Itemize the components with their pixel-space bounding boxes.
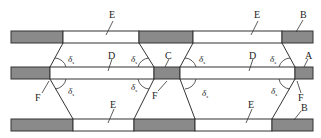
- top-plate-segment-gray: [282, 31, 313, 43]
- middle-plate-segment-gray: [11, 67, 50, 79]
- top-plate-segment-white: [193, 31, 282, 43]
- wall-top-right: [282, 43, 295, 67]
- arc-top-right: [279, 58, 290, 67]
- cell-walls: [50, 43, 295, 119]
- leader-f-left: [42, 81, 49, 93]
- delta-c-bottom-left: δs: [131, 82, 137, 93]
- top-plate-segment-gray: [11, 31, 63, 43]
- arc-top-c-left: [138, 58, 149, 67]
- delta-bottom-left: δs: [68, 86, 74, 97]
- top-plate-segment-white: [63, 31, 139, 43]
- wall-top-center-left: [139, 43, 154, 67]
- delta-c-top-right: δs: [199, 54, 205, 65]
- arc-top-left: [55, 58, 66, 67]
- leader-f-center: [158, 81, 167, 91]
- bottom-plate-segment-white: [73, 119, 134, 131]
- delta-c-top-left: δs: [131, 54, 137, 65]
- label-d-right: D: [249, 50, 256, 61]
- middle-plate-segment-gray: [154, 67, 180, 79]
- arc-bottom-c-right: [185, 79, 196, 89]
- label-e-top-left: E: [109, 9, 115, 20]
- delta-bottom-right: δs: [271, 86, 277, 97]
- bottom-plate-segment-gray: [11, 119, 73, 131]
- delta-top-left: δs: [68, 54, 74, 65]
- wall-top-center-right: [180, 43, 193, 67]
- delta-c-bottom-right: δs: [202, 88, 208, 99]
- label-f-left: F: [35, 92, 41, 103]
- middle-plate-segment-white: [180, 67, 295, 79]
- label-c: C: [165, 50, 172, 61]
- bottom-plate-segment-white: [195, 119, 272, 131]
- arc-bottom-right: [279, 79, 290, 89]
- wall-bottom-center-left: [134, 79, 154, 119]
- bottom-plate-segment-gray: [134, 119, 195, 131]
- wall-bottom-left: [50, 79, 73, 119]
- middle-plate-segment-gray: [295, 67, 313, 79]
- label-b-bottom: B: [301, 102, 308, 113]
- honeycomb-diagram: E E B D D C A F F F E E B δs δs δs δs δs…: [0, 0, 321, 138]
- top-plate-segment-gray: [139, 31, 193, 43]
- label-b-top: B: [300, 9, 307, 20]
- wall-bottom-right: [272, 79, 295, 119]
- label-f-center: F: [152, 90, 158, 101]
- arc-top-c-right: [185, 58, 196, 67]
- label-d-left: D: [108, 50, 115, 61]
- delta-top-right: δs: [270, 54, 276, 65]
- label-e-bottom-right: E: [248, 99, 254, 110]
- wall-top-left: [50, 43, 63, 67]
- label-a: A: [305, 50, 313, 61]
- middle-plate-segment-white: [50, 67, 154, 79]
- leader-b-top: [296, 20, 303, 32]
- plates: [11, 31, 313, 131]
- arc-bottom-left: [55, 79, 66, 89]
- label-e-top-right: E: [254, 9, 260, 20]
- bottom-plate-segment-gray: [272, 119, 313, 131]
- arc-bottom-c-left: [138, 79, 149, 89]
- label-e-bottom-left: E: [110, 99, 116, 110]
